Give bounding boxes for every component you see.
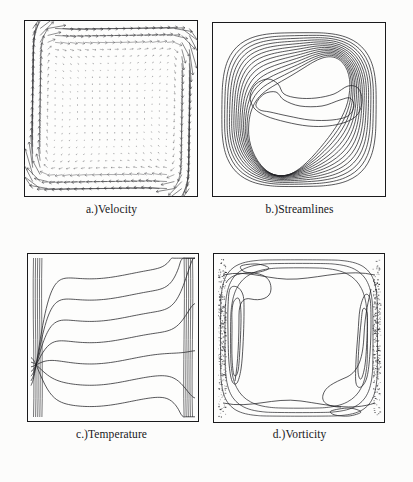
vorticity-boundary-speckle — [375, 354, 376, 355]
vorticity-boundary-speckle — [378, 323, 379, 324]
vorticity-boundary-speckle — [223, 330, 225, 331]
vorticity-boundary-speckle — [220, 300, 221, 301]
vorticity-boundary-speckle — [376, 268, 378, 269]
vorticity-boundary-speckle — [377, 294, 378, 295]
vorticity-boundary-speckle — [376, 306, 377, 307]
velocity-vector — [55, 84, 56, 85]
velocity-vector — [122, 84, 123, 85]
vorticity-boundary-speckle — [380, 373, 381, 374]
vorticity-boundary-speckle — [224, 347, 225, 348]
velocity-vector — [77, 118, 78, 119]
vorticity-boundary-speckle — [221, 259, 222, 260]
vorticity-boundary-speckle — [222, 346, 223, 347]
vorticity-boundary-speckle — [224, 287, 225, 288]
velocity-vector — [55, 112, 56, 113]
vorticity-boundary-speckle — [224, 327, 225, 328]
velocity-vector — [107, 112, 108, 113]
velocity-vector — [129, 105, 130, 106]
vorticity-boundary-speckle — [376, 351, 378, 352]
figure-container: a.)Velocity b.)Streamlines c.)Temperatur… — [0, 0, 413, 482]
vorticity-boundary-speckle — [378, 355, 379, 356]
velocity-vector — [166, 132, 167, 133]
vorticity-boundary-speckle — [373, 403, 374, 404]
vorticity-boundary-speckle — [219, 364, 221, 365]
vorticity-boundary-speckle — [373, 408, 375, 409]
vorticity-boundary-speckle — [225, 368, 226, 369]
vorticity-boundary-speckle — [219, 341, 220, 342]
vorticity-boundary-speckle — [220, 316, 221, 317]
vorticity-boundary-speckle — [376, 274, 377, 275]
vorticity-boundary-speckle — [373, 365, 374, 366]
vorticity-boundary-speckle — [375, 339, 376, 340]
vorticity-boundary-speckle — [377, 376, 378, 377]
vorticity-boundary-speckle — [225, 371, 227, 372]
velocity-vector — [166, 118, 167, 119]
vorticity-boundary-speckle — [377, 362, 378, 363]
velocity-vector — [99, 112, 100, 113]
vorticity-boundary-speckle — [378, 378, 380, 379]
caption-streamlines: b.)Streamlines — [212, 203, 387, 215]
vorticity-boundary-speckle — [377, 265, 378, 266]
vorticity-boundary-speckle — [376, 308, 377, 309]
velocity-vector — [99, 77, 100, 78]
velocity-vector — [114, 105, 115, 106]
vorticity-boundary-speckle — [379, 331, 381, 332]
vorticity-boundary-speckle — [376, 329, 377, 330]
vorticity-boundary-speckle — [225, 390, 226, 391]
vorticity-boundary-speckle — [379, 362, 380, 363]
velocity-vector — [92, 132, 93, 133]
vorticity-boundary-speckle — [224, 299, 225, 300]
vorticity-boundary-speckle — [374, 381, 375, 382]
vorticity-boundary-speckle — [374, 342, 375, 343]
vorticity-boundary-speckle — [219, 309, 220, 310]
velocity-vector — [137, 132, 138, 133]
vorticity-boundary-speckle — [218, 416, 220, 417]
vorticity-boundary-speckle — [220, 345, 221, 346]
vorticity-boundary-speckle — [219, 358, 220, 359]
vorticity-boundary-speckle — [223, 379, 225, 380]
vorticity-boundary-speckle — [220, 315, 221, 316]
vorticity-boundary-speckle — [224, 336, 225, 337]
vorticity-boundary-speckle — [373, 367, 374, 368]
vorticity-boundary-speckle — [220, 288, 221, 289]
vorticity-boundary-speckle — [224, 364, 226, 365]
velocity-vector — [166, 91, 167, 92]
vorticity-boundary-speckle — [224, 265, 226, 266]
vorticity-boundary-speckle — [225, 335, 226, 336]
vorticity-boundary-speckle — [220, 274, 221, 275]
vorticity-boundary-speckle — [374, 331, 375, 332]
vorticity-boundary-speckle — [225, 285, 226, 286]
vorticity-boundary-speckle — [225, 374, 226, 375]
vorticity-boundary-speckle — [222, 333, 223, 334]
vorticity-boundary-speckle — [379, 298, 380, 299]
vorticity-boundary-speckle — [221, 389, 222, 390]
velocity-vector — [92, 139, 93, 140]
panel-temperature — [27, 253, 199, 422]
velocity-vector — [77, 112, 78, 113]
vorticity-boundary-speckle — [225, 388, 227, 389]
vorticity-boundary-speckle — [224, 305, 225, 306]
vorticity-boundary-speckle — [376, 297, 377, 298]
vorticity-boundary-speckle — [378, 359, 379, 360]
vorticity-boundary-speckle — [374, 304, 375, 305]
vorticity-boundary-speckle — [376, 327, 377, 328]
vorticity-boundary-speckle — [224, 307, 225, 308]
vorticity-boundary-speckle — [374, 400, 375, 401]
vorticity-boundary-speckle — [221, 359, 223, 360]
velocity-vector — [84, 112, 85, 113]
vorticity-boundary-speckle — [220, 313, 222, 314]
vorticity-boundary-speckle — [225, 399, 226, 400]
vorticity-boundary-speckle — [221, 287, 222, 288]
vorticity-boundary-speckle — [218, 315, 219, 316]
vorticity-boundary-speckle — [378, 349, 379, 350]
velocity-vector — [122, 118, 123, 119]
vorticity-boundary-speckle — [373, 327, 374, 328]
vorticity-boundary-speckle — [221, 292, 223, 293]
vorticity-boundary-speckle — [374, 294, 375, 295]
vorticity-boundary-speckle — [223, 337, 224, 338]
vorticity-boundary-speckle — [377, 296, 378, 297]
vorticity-boundary-speckle — [225, 414, 226, 415]
vorticity-boundary-speckle — [218, 312, 219, 313]
vorticity-boundary-speckle — [222, 361, 224, 362]
vorticity-boundary-speckle — [219, 389, 220, 390]
